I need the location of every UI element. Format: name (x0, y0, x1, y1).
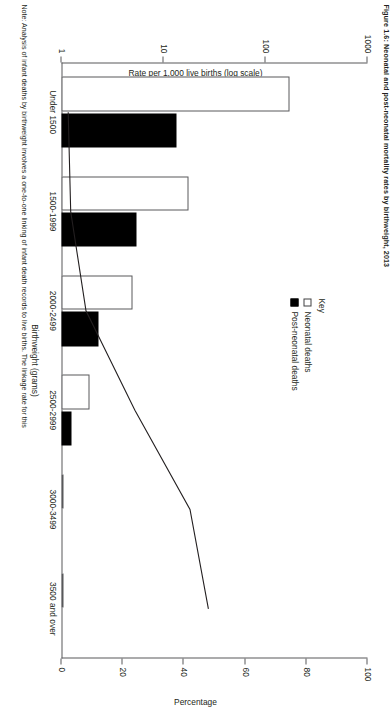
right-tick-label: 60 (240, 667, 250, 676)
legend-label-post-neonatal: Post-neonatal deaths (287, 311, 299, 390)
right-tick-label: 80 (301, 667, 311, 676)
legend-item-neonatal: Neonatal deaths (301, 298, 313, 390)
right-tick-mark (121, 658, 122, 664)
legend-key: Key Neonatal deaths Post-neonatal deaths (287, 298, 327, 390)
category-label: 3500 and over (47, 582, 57, 636)
category-label: 1500-1999 (47, 191, 57, 231)
x-axis-label: Birthweight (grams) (29, 62, 39, 658)
right-tick-label: 100 (362, 667, 372, 681)
right-tick-mark (182, 658, 183, 664)
left-tick-mark (162, 56, 163, 62)
legend-title: Key (315, 298, 327, 390)
right-tick-label: 0 (56, 667, 66, 672)
left-tick-mark (366, 56, 367, 62)
figure-note: Note: Analysis of infant deaths by birth… (18, 4, 27, 720)
left-tick-label: 100 (260, 39, 270, 53)
category-tick-labels: Under 15001500-19992000-24992500-2999300… (43, 62, 57, 658)
legend-swatch-neonatal (303, 298, 311, 306)
right-tick-label: 20 (117, 667, 127, 676)
category-label: Under 1500 (47, 90, 57, 134)
right-tick-mark (244, 658, 245, 664)
plot-area: 1101001000 020406080100 Key Neonatal dea… (61, 62, 367, 658)
category-label: 2500-2999 (47, 390, 57, 430)
left-tick-mark (264, 56, 265, 62)
right-tick-mark (60, 658, 61, 664)
legend-swatch-post-neonatal (290, 298, 298, 306)
figure-page: Figure 1.6: Neonatal and post-neonatal m… (0, 0, 391, 725)
left-tick-mark (60, 56, 61, 62)
left-tick-label: 1000 (362, 34, 372, 53)
right-tick-label: 40 (178, 667, 188, 676)
legend-label-neonatal: Neonatal deaths (301, 311, 313, 372)
category-label: 2000-2499 (47, 290, 57, 330)
rotated-page-wrapper: Figure 1.6: Neonatal and post-neonatal m… (0, 0, 391, 725)
y-axis-label-right: Percentage (174, 697, 217, 707)
right-tick-mark (305, 658, 306, 664)
left-tick-label: 10 (158, 44, 168, 53)
figure-caption: Figure 1.6: Neonatal and post-neonatal m… (381, 4, 390, 720)
legend-item-post-neonatal: Post-neonatal deaths (287, 298, 299, 390)
right-tick-mark (366, 658, 367, 664)
category-label: 3000-3499 (47, 489, 57, 529)
left-tick-label: 1 (56, 48, 66, 53)
